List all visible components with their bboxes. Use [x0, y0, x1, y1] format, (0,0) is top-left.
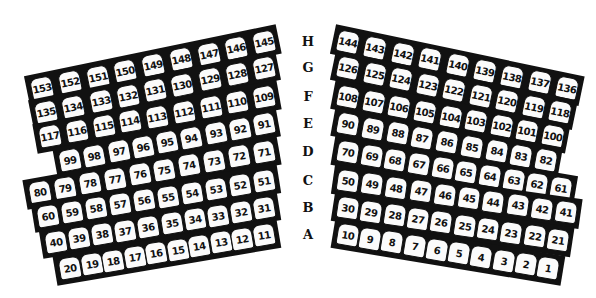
seat-127[interactable]: 127: [251, 55, 277, 81]
seat-59[interactable]: 59: [59, 199, 84, 224]
seat-91[interactable]: 91: [251, 111, 277, 137]
seat-34[interactable]: 34: [182, 207, 207, 232]
seat-49[interactable]: 49: [360, 172, 385, 197]
seat-67[interactable]: 67: [406, 151, 431, 176]
seat-27[interactable]: 27: [405, 206, 430, 231]
seat-16[interactable]: 16: [144, 241, 169, 266]
seat-7[interactable]: 7: [402, 233, 427, 258]
seat-35[interactable]: 35: [159, 210, 184, 235]
seat-number: 128: [226, 66, 247, 81]
seat-10[interactable]: 10: [335, 222, 360, 247]
seat-41[interactable]: 41: [554, 200, 579, 225]
seat-44[interactable]: 44: [481, 189, 506, 214]
seat-number: 66: [435, 162, 449, 175]
seat-50[interactable]: 50: [336, 169, 361, 194]
seat-31[interactable]: 31: [251, 195, 276, 220]
seat-93[interactable]: 93: [203, 120, 229, 146]
seat-6[interactable]: 6: [424, 237, 449, 262]
seat-92[interactable]: 92: [227, 116, 253, 142]
seat-20[interactable]: 20: [57, 255, 82, 280]
seat-113[interactable]: 113: [144, 104, 170, 130]
seat-2[interactable]: 2: [513, 252, 538, 277]
seat-3[interactable]: 3: [491, 248, 516, 273]
seat-48[interactable]: 48: [384, 175, 409, 200]
seat-number: 139: [474, 63, 495, 78]
seat-36[interactable]: 36: [136, 214, 161, 239]
seat-37[interactable]: 37: [113, 218, 138, 243]
seat-39[interactable]: 39: [66, 226, 91, 251]
seat-25[interactable]: 25: [452, 213, 477, 238]
seat-117[interactable]: 117: [37, 123, 63, 149]
seat-68[interactable]: 68: [383, 147, 408, 172]
seat-4[interactable]: 4: [469, 244, 494, 269]
seat-115[interactable]: 115: [91, 113, 117, 139]
seat-number: 89: [366, 122, 380, 135]
seat-87[interactable]: 87: [409, 125, 435, 151]
seat-26[interactable]: 26: [429, 210, 454, 235]
seat-96[interactable]: 96: [130, 134, 156, 160]
seat-125[interactable]: 125: [361, 60, 387, 86]
seat-38[interactable]: 38: [90, 222, 115, 247]
seat-45[interactable]: 45: [457, 186, 482, 211]
seat-95[interactable]: 95: [154, 129, 180, 155]
seat-43[interactable]: 43: [505, 193, 530, 218]
seat-24[interactable]: 24: [475, 217, 500, 242]
seat-90[interactable]: 90: [335, 111, 361, 137]
seat-97[interactable]: 97: [106, 138, 132, 164]
seat-110[interactable]: 110: [224, 89, 250, 115]
seat-32[interactable]: 32: [228, 199, 253, 224]
seat-number: 109: [254, 90, 275, 104]
seat-60[interactable]: 60: [35, 203, 60, 228]
seat-57[interactable]: 57: [107, 192, 132, 217]
seat-number: 35: [164, 217, 178, 230]
seat-14[interactable]: 14: [187, 233, 212, 258]
seat-number: 5: [455, 247, 463, 259]
seat-124[interactable]: 124: [388, 66, 414, 92]
seat-23[interactable]: 23: [499, 220, 524, 245]
seat-86[interactable]: 86: [434, 129, 460, 155]
seat-89[interactable]: 89: [360, 116, 386, 142]
seat-109[interactable]: 109: [251, 84, 277, 110]
seat-112[interactable]: 112: [171, 99, 197, 125]
seat-72[interactable]: 72: [226, 144, 252, 170]
seat-114[interactable]: 114: [117, 109, 143, 135]
seat-88[interactable]: 88: [385, 120, 411, 146]
seat-number: 119: [523, 99, 544, 114]
seat-number: 104: [440, 109, 461, 123]
seat-111[interactable]: 111: [198, 94, 224, 120]
seat-73[interactable]: 73: [201, 148, 227, 174]
seat-71[interactable]: 71: [251, 139, 277, 165]
seat-54[interactable]: 54: [179, 180, 204, 205]
seat-29[interactable]: 29: [359, 199, 384, 224]
seat-21[interactable]: 21: [545, 227, 570, 252]
seat-number: 143: [365, 40, 386, 55]
seat-11[interactable]: 11: [251, 222, 276, 247]
seat-40[interactable]: 40: [43, 229, 68, 254]
seat-129[interactable]: 129: [197, 66, 223, 92]
seat-116[interactable]: 116: [64, 118, 90, 144]
seat-30[interactable]: 30: [335, 195, 360, 220]
seat-28[interactable]: 28: [382, 203, 407, 228]
seat-47[interactable]: 47: [408, 179, 433, 204]
seat-22[interactable]: 22: [522, 224, 547, 249]
seat-126[interactable]: 126: [335, 55, 361, 81]
seat-56[interactable]: 56: [131, 188, 156, 213]
seat-70[interactable]: 70: [335, 139, 360, 164]
seat-128[interactable]: 128: [224, 61, 250, 87]
seat-66[interactable]: 66: [430, 155, 455, 180]
seat-74[interactable]: 74: [177, 153, 203, 179]
seat-85[interactable]: 85: [459, 134, 485, 160]
seat-number: 141: [420, 52, 441, 67]
seat-1[interactable]: 1: [535, 255, 560, 280]
seat-18[interactable]: 18: [100, 248, 125, 273]
seat-number: 64: [483, 170, 497, 183]
seat-58[interactable]: 58: [83, 196, 108, 221]
seat-number: 69: [364, 150, 378, 163]
seat-123[interactable]: 123: [414, 71, 440, 97]
seat-8[interactable]: 8: [380, 230, 405, 255]
seat-55[interactable]: 55: [155, 184, 180, 209]
seat-69[interactable]: 69: [359, 143, 384, 168]
seat-46[interactable]: 46: [432, 182, 457, 207]
seat-42[interactable]: 42: [529, 196, 554, 221]
seat-33[interactable]: 33: [205, 203, 230, 228]
